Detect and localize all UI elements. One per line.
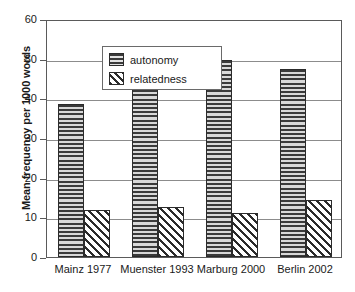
bar-relatedness [232, 213, 258, 257]
chart-legend: autonomy relatedness [102, 46, 222, 90]
y-tick-label: 30 [7, 132, 37, 144]
y-tick-label: 10 [7, 211, 37, 223]
y-tick-label: 60 [7, 13, 37, 25]
x-tick-label: Muenster 1993 [120, 263, 194, 275]
legend-label-autonomy: autonomy [130, 54, 178, 66]
y-tick-label: 20 [7, 172, 37, 184]
legend-item-autonomy: autonomy [109, 51, 221, 68]
x-tick-label: Mainz 1977 [46, 263, 120, 275]
y-tick-mark [40, 258, 46, 259]
y-tick-label: 40 [7, 92, 37, 104]
y-axis-title: Mean frequency per 1000 words [20, 13, 32, 243]
bar-relatedness [306, 200, 332, 257]
bar-group [280, 21, 332, 257]
bar-autonomy [132, 85, 158, 257]
bar-autonomy [58, 104, 84, 257]
bar-chart: Mean frequency per 1000 words 0102030405… [0, 0, 355, 292]
y-tick-label: 50 [7, 53, 37, 65]
x-tick-label: Marburg 2000 [194, 263, 268, 275]
diagonal-hatch-swatch-icon [109, 72, 124, 85]
horizontal-stripes-swatch-icon [109, 53, 124, 66]
plot-area: autonomy relatedness [46, 20, 342, 258]
x-tick-label: Berlin 2002 [268, 263, 342, 275]
bar-relatedness [84, 210, 110, 257]
y-tick-label: 0 [7, 251, 37, 263]
legend-item-relatedness: relatedness [109, 70, 221, 87]
bar-relatedness [158, 207, 184, 257]
bar-autonomy [280, 69, 306, 257]
legend-label-relatedness: relatedness [130, 73, 187, 85]
